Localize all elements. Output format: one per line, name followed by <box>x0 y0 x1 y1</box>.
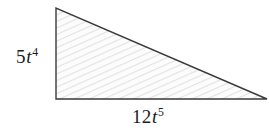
height-variable: t <box>26 46 32 67</box>
triangle-shape <box>56 8 267 99</box>
height-coefficient: 5 <box>16 46 26 67</box>
base-label: 12t5 <box>132 107 164 126</box>
base-coefficient: 12 <box>132 106 151 127</box>
height-exponent: 4 <box>32 46 39 59</box>
height-label: 5t4 <box>16 47 38 66</box>
figure-canvas: 5t4 12t5 <box>0 0 269 135</box>
base-exponent: 5 <box>157 106 164 119</box>
